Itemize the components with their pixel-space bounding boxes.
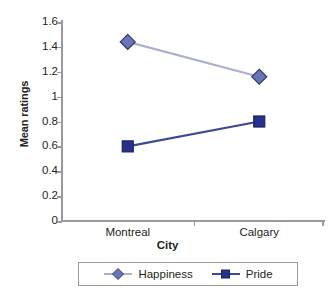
data-point-pride-montreal — [122, 141, 133, 152]
y-axis-tick-labels: 00.20.40.60.811.21.41.6 — [20, 0, 58, 299]
legend-entry-pride[interactable]: Pride — [211, 267, 273, 281]
data-point-pride-calgary — [254, 116, 265, 127]
y-tick-label: 0.8 — [24, 116, 58, 128]
legend-label: Happiness — [138, 268, 192, 280]
x-axis-title: City — [0, 239, 335, 251]
chart-legend: HappinessPride — [78, 262, 298, 286]
y-tick-label: 0.2 — [24, 190, 58, 202]
data-point-happiness-montreal — [120, 34, 135, 49]
legend-label: Pride — [246, 268, 273, 280]
x-tick-label: Calgary — [204, 226, 314, 238]
y-tick-label: 1 — [24, 91, 58, 103]
y-tick-label: 1.6 — [24, 16, 58, 28]
legend-marker-diamond-icon — [103, 267, 133, 281]
series-line-happiness — [128, 42, 260, 77]
x-axis-tick — [322, 221, 324, 226]
y-tick-label: 1.2 — [24, 66, 58, 78]
y-tick-label: 0.4 — [24, 165, 58, 177]
y-tick-label: 0 — [24, 215, 58, 227]
series-svg — [62, 22, 325, 221]
y-tick-label: 0.6 — [24, 140, 58, 152]
data-point-happiness-calgary — [252, 69, 267, 84]
x-axis-tick — [194, 221, 196, 226]
line-chart: Mean ratings 00.20.40.60.811.21.41.6 Mon… — [0, 0, 335, 299]
y-tick-label: 1.4 — [24, 41, 58, 53]
legend-marker-square-icon — [211, 267, 241, 281]
series-line-pride — [128, 122, 260, 147]
x-tick-label: Montreal — [73, 226, 183, 238]
legend-entry-happiness[interactable]: Happiness — [103, 267, 192, 281]
plot-area — [62, 22, 325, 221]
y-axis-tick — [57, 221, 62, 223]
